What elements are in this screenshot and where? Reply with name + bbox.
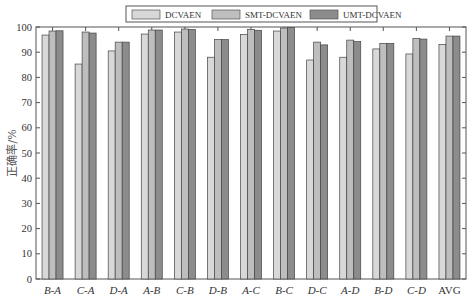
bar-umt-dcvaen-b-d (387, 43, 394, 279)
bars (42, 28, 460, 279)
bar-umt-dcvaen-b-c (288, 28, 295, 279)
bar-smt-dcvaen-a-b (148, 30, 155, 279)
bar-smt-dcvaen-d-b (214, 40, 221, 279)
bar-dcvaen-a-d (340, 57, 347, 279)
bar-umt-dcvaen-d-a (122, 42, 129, 279)
bar-umt-dcvaen-c-a (89, 33, 96, 279)
bar-dcvaen-d-c (307, 60, 314, 279)
x-tick-label: A-C (241, 284, 260, 296)
bar-chart: B-AC-AD-AA-BC-BD-BA-CB-CD-CA-DB-DC-DAVG … (0, 0, 472, 303)
legend-swatch (212, 10, 240, 19)
bar-dcvaen-avg (439, 44, 446, 279)
bar-dcvaen-b-a (42, 35, 49, 279)
bar-smt-dcvaen-avg (446, 36, 453, 279)
x-tick-label: D-A (109, 284, 129, 296)
x-tick-label: D-C (307, 284, 328, 296)
x-tick-label: C-B (176, 284, 194, 296)
bar-dcvaen-b-c (274, 31, 281, 279)
legend-swatch (132, 10, 160, 19)
bar-umt-dcvaen-c-d (420, 39, 427, 279)
y-tick-label: 0 (27, 274, 32, 285)
bar-smt-dcvaen-b-a (49, 31, 56, 279)
bar-dcvaen-d-b (207, 57, 214, 279)
x-tick-label: B-D (374, 284, 392, 296)
y-tick-label: 60 (22, 122, 33, 133)
x-tick-label: B-A (44, 284, 61, 296)
y-tick-label: 80 (22, 72, 33, 83)
bar-dcvaen-c-d (406, 54, 413, 279)
bar-dcvaen-d-a (108, 51, 115, 279)
bar-umt-dcvaen-c-b (188, 30, 195, 279)
bar-smt-dcvaen-c-d (413, 38, 420, 279)
bar-dcvaen-a-c (241, 35, 248, 279)
y-axis-label: 正确率/% (5, 129, 19, 176)
y-tick-label: 70 (22, 97, 33, 108)
y-tick-label: 20 (22, 223, 33, 234)
bar-smt-dcvaen-c-b (181, 29, 188, 279)
legend-label: SMT-DCVAEN (245, 10, 303, 20)
legend-label: UMT-DCVAEN (343, 10, 402, 20)
y-tick-label: 100 (16, 22, 32, 33)
bar-smt-dcvaen-a-d (347, 40, 354, 279)
x-tick-label: A-B (142, 284, 160, 296)
bar-smt-dcvaen-a-c (248, 30, 255, 279)
bar-umt-dcvaen-d-b (221, 40, 228, 279)
x-tick-label: AVG (438, 284, 460, 296)
bar-umt-dcvaen-b-a (56, 31, 63, 279)
bar-dcvaen-c-a (75, 64, 82, 279)
bar-smt-dcvaen-b-d (380, 43, 387, 279)
bar-smt-dcvaen-c-a (82, 32, 89, 279)
legend-label: DCVAEN (165, 10, 202, 20)
y-tick-label: 10 (22, 248, 33, 259)
legend-swatch (310, 10, 338, 19)
bar-dcvaen-c-b (174, 32, 181, 279)
y-tick-label: 40 (22, 173, 33, 184)
x-tick-label: C-D (407, 284, 426, 296)
x-tick-labels: B-AC-AD-AA-BC-BD-BA-CB-CD-CA-DB-DC-DAVG (44, 284, 461, 296)
y-tick-label: 90 (22, 47, 33, 58)
bar-smt-dcvaen-b-c (281, 28, 288, 279)
y-tick-label: 50 (22, 148, 33, 159)
bar-smt-dcvaen-d-a (115, 42, 122, 279)
bar-umt-dcvaen-a-b (155, 30, 162, 279)
x-tick-label: A-D (340, 284, 359, 296)
bar-umt-dcvaen-a-c (255, 30, 262, 279)
bar-umt-dcvaen-a-d (354, 42, 361, 279)
x-tick-label: D-B (208, 284, 228, 296)
bar-dcvaen-a-b (141, 34, 148, 279)
y-tick-label: 30 (22, 198, 33, 209)
x-tick-label: B-C (275, 284, 293, 296)
bar-smt-dcvaen-d-c (314, 42, 321, 279)
bar-umt-dcvaen-d-c (321, 45, 328, 279)
bar-dcvaen-b-d (373, 49, 380, 279)
bar-umt-dcvaen-avg (453, 36, 460, 279)
x-tick-label: C-A (77, 284, 95, 296)
legend: DCVAENSMT-DCVAENUMT-DCVAEN (126, 6, 402, 22)
